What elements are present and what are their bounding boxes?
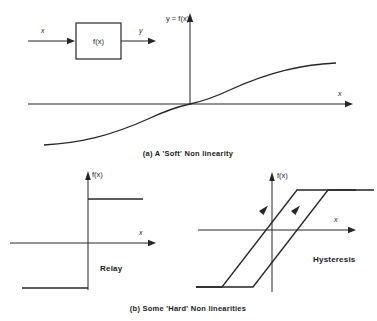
hysteresis-upper-branch	[196, 190, 356, 287]
figure-nonlinearities: x f(x) y y = f(x) x (a) A 'Soft' Non lin…	[0, 0, 377, 321]
box-label: f(x)	[93, 37, 104, 46]
relay-x-axis-arrowhead	[148, 240, 156, 246]
relay-y-axis-label: f(x)	[92, 170, 103, 179]
caption-a: (a) A 'Soft' Non linearity	[143, 149, 234, 158]
block-diagram: x f(x) y	[28, 23, 156, 59]
plot-soft-nonlinearity: y = f(x) x (a) A 'Soft' Non linearity	[28, 13, 353, 158]
hysteresis-arrow-left-branch	[259, 206, 268, 216]
hysteresis-x-axis-label: x	[333, 216, 338, 223]
relay-y-axis-arrowhead	[85, 171, 91, 180]
hysteresis-x-axis-arrowhead	[348, 227, 356, 233]
input-arrowhead	[67, 38, 75, 44]
hysteresis-y-axis-arrowhead	[269, 172, 275, 181]
relay-x-axis-label: x	[138, 229, 143, 236]
figure-canvas: x f(x) y y = f(x) x (a) A 'Soft' Non lin…	[0, 0, 377, 321]
relay-name-label: Relay	[100, 264, 123, 273]
caption-b: (b) Some 'Hard' Non linearities	[130, 304, 246, 313]
hysteresis-arrow-right-branch	[291, 206, 300, 216]
soft-x-axis-arrowhead	[345, 101, 353, 107]
soft-x-axis-label: x	[337, 90, 342, 97]
plot-hysteresis: f(x) x Hysteresis	[196, 171, 374, 292]
output-arrowhead	[148, 38, 156, 44]
hysteresis-y-axis-label: f(x)	[277, 171, 288, 180]
plot-relay: f(x) x Relay	[10, 170, 156, 290]
hysteresis-name-label: Hysteresis	[313, 255, 356, 264]
input-label: x	[40, 27, 45, 34]
output-label: y	[138, 27, 143, 35]
soft-y-axis-label: y = f(x)	[166, 14, 190, 23]
